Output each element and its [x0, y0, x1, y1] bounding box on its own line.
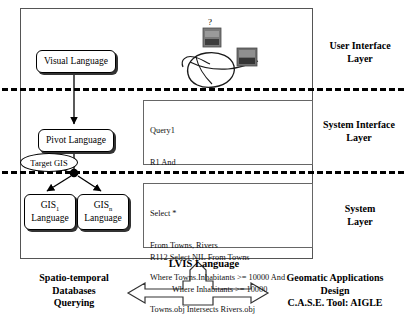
footer-left-line2: Databases	[18, 285, 130, 298]
node-gisn-subscript: n	[109, 204, 112, 211]
node-pivot-language-label: Pivot Language	[46, 135, 106, 146]
node-gis1-line2: Language	[31, 213, 68, 224]
query-line-2: R1 And	[150, 158, 307, 169]
node-gis1-line1: GIS1	[41, 200, 60, 214]
footer-right-line1: Geomatic Applications	[268, 272, 402, 285]
node-pivot-language[interactable]: Pivot Language	[38, 129, 114, 152]
sql-line-2: From Towns, Rivers	[150, 241, 307, 252]
node-target-gis[interactable]: Target GIS	[20, 153, 78, 172]
node-gisn-language[interactable]: GISn Language	[77, 194, 129, 230]
node-visual-language[interactable]: Visual Language	[36, 50, 116, 73]
sketch-question-mark: ?	[208, 17, 212, 27]
node-visual-language-label: Visual Language	[44, 56, 108, 67]
query-box[interactable]: Query1 R1 And R11 Topological_Intersecti…	[143, 100, 313, 165]
sketch-thumbnail-right	[237, 48, 257, 66]
node-gisn-line1: GISn	[94, 200, 113, 214]
footer-left-line1: Spatio-temporal	[18, 272, 130, 285]
connector-junction-to-gisn	[78, 176, 101, 191]
footer-center-label: LVIS Language	[142, 258, 266, 269]
footer-right-line2: Design	[268, 285, 402, 298]
node-target-gis-label: Target GIS	[30, 158, 67, 168]
sketch-thumbnail-top	[203, 28, 221, 47]
footer-left-line3: Querying	[18, 297, 130, 310]
sql-line-1: Select *	[150, 209, 307, 220]
connector-junction-to-gis1	[47, 176, 71, 191]
diagram-canvas: User Interface Layer System Interface La…	[0, 0, 406, 319]
footer-left-caption: Spatio-temporal Databases Querying	[18, 272, 130, 310]
node-gis1-subscript: 1	[56, 204, 59, 211]
footer-right-caption: Geomatic Applications Design C.A.S.E. To…	[268, 272, 402, 310]
query-line-1: Query1	[150, 126, 307, 137]
node-gisn-line2: Language	[84, 213, 121, 224]
footer-right-line3: C.A.S.E. Tool: AIGLE	[268, 297, 402, 310]
node-gis1-language[interactable]: GIS1 Language	[24, 194, 76, 230]
sql-box[interactable]: Select * From Towns, Rivers Where Towns.…	[143, 183, 313, 248]
